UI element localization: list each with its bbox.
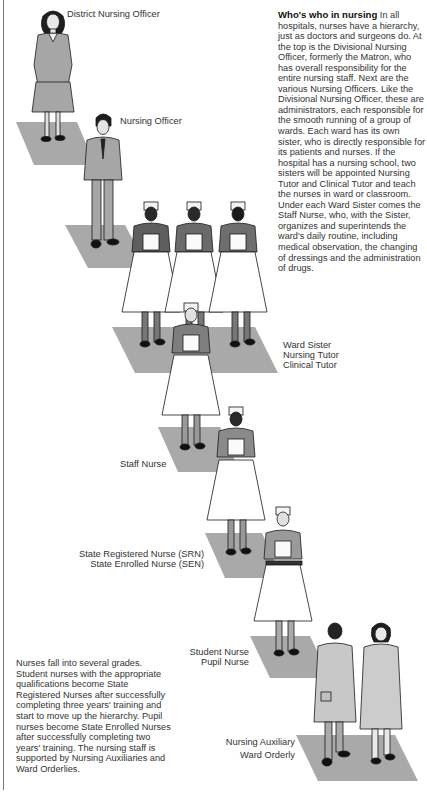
label-nursing-auxiliary: Nursing Auxiliary (226, 737, 295, 748)
figure-district-nursing-officer (32, 11, 74, 142)
label-district-nursing-officer: District Nursing Officer (67, 9, 160, 20)
label-state-enrolled-nurse: State Enrolled Nurse (SEN) (90, 559, 204, 570)
figure-student-nurse (254, 507, 312, 656)
label-nursing-officer: Nursing Officer (120, 116, 182, 127)
label-clinical-tutor: Clinical Tutor (283, 360, 337, 371)
illustrated-page: District Nursing Officer Nursing Officer… (0, 0, 427, 795)
intro-heading: Who's who in nursing (278, 9, 377, 20)
floor-tile-auxiliary-orderly (296, 735, 418, 781)
intro-paragraph: Who's who in nursing In all hospitals, n… (278, 10, 426, 274)
grades-paragraph: Nurses fall into several grades. Student… (16, 658, 174, 775)
floor-tile-district-officer (16, 122, 95, 165)
label-ward-orderly: Ward Orderly (240, 750, 295, 761)
figure-clinical-tutor (209, 202, 267, 347)
label-staff-nurse: Staff Nurse (120, 459, 166, 470)
intro-body: In all hospitals, nurses have a hierarch… (278, 10, 425, 273)
figure-ward-sister (122, 202, 180, 347)
label-pupil-nurse: Pupil Nurse (201, 657, 249, 668)
